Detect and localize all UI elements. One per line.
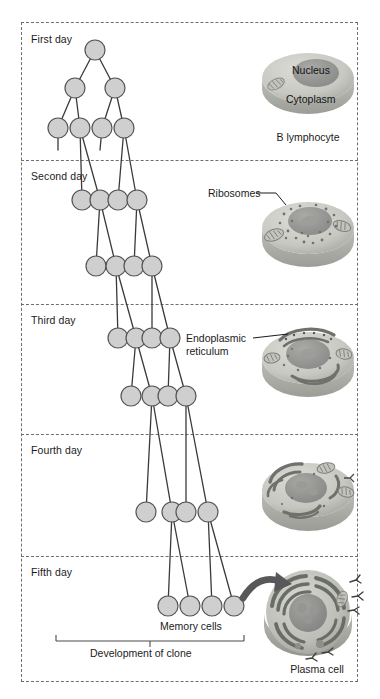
endoplasmic-reticulum-label: Endoplasmic reticulum xyxy=(186,332,272,357)
day2-cell-illustration xyxy=(258,188,358,280)
b-lymphocyte-illustration xyxy=(258,42,358,128)
day-label-third: Third day xyxy=(31,314,76,326)
day-label-first: First day xyxy=(31,33,72,45)
divider-first-second xyxy=(21,160,358,161)
divider-second-third xyxy=(21,304,358,305)
divider-third-fourth xyxy=(21,434,358,435)
divider-fourth-fifth xyxy=(21,556,358,557)
er-label-line2: reticulum xyxy=(186,345,229,357)
development-of-clone-label: Development of clone xyxy=(90,647,192,660)
day4-cell-illustration xyxy=(258,448,358,544)
nucleus-label: Nucleus xyxy=(292,64,330,77)
b-lymphocyte-caption: B lymphocyte xyxy=(258,131,358,143)
plasma-cell-caption: Plasma cell xyxy=(262,663,372,675)
memory-cells-label: Memory cells xyxy=(160,620,222,633)
plasma-cell-illustration xyxy=(258,566,368,670)
day3-cell-illustration xyxy=(258,318,358,410)
cytoplasm-label: Cytoplasm xyxy=(286,93,336,106)
diagram-canvas: First day Second day Third day Fourth da… xyxy=(0,0,380,699)
er-label-line1: Endoplasmic xyxy=(186,332,246,344)
day-label-fifth: Fifth day xyxy=(31,566,72,578)
day-label-fourth: Fourth day xyxy=(31,444,82,456)
day-label-second: Second day xyxy=(31,170,87,182)
ribosomes-label: Ribosomes xyxy=(208,187,261,200)
